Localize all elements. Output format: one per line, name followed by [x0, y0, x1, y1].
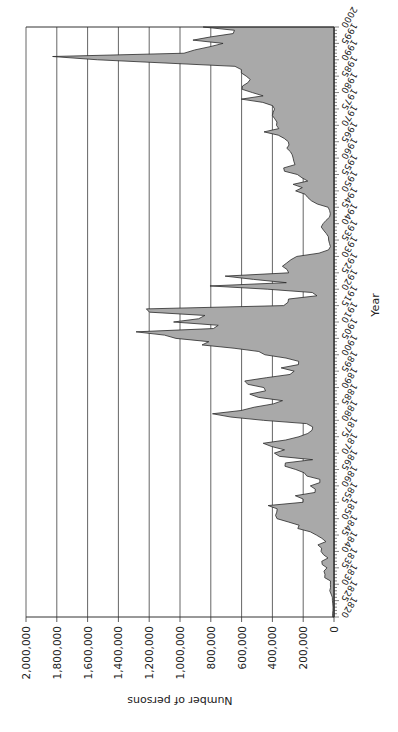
y-tick-label: 1,600,000	[82, 626, 94, 679]
immigration-area-series	[53, 27, 334, 617]
y-axis-ticks: 0200,000400,000600,000800,0001,000,0001,…	[20, 617, 340, 679]
y-tick-label: 1,200,000	[143, 626, 155, 679]
y-tick-label: 2,000,000	[20, 626, 32, 679]
y-tick-label: 200,000	[297, 626, 309, 669]
y-tick-label: 0	[328, 626, 340, 633]
y-tick-label: 1,800,000	[51, 626, 63, 679]
x-axis-ticks: 1820182518301835184018451850185518601865…	[334, 5, 359, 620]
y-tick-label: 1,400,000	[112, 626, 124, 679]
y-tick-label: 1,000,000	[174, 626, 186, 679]
area-chart: 1820182518301835184018451850185518601865…	[0, 0, 398, 732]
y-tick-label: 400,000	[266, 626, 278, 669]
y-tick-label: 800,000	[205, 626, 217, 669]
y-axis-title: Number of persons	[127, 694, 232, 707]
y-tick-label: 600,000	[236, 626, 248, 669]
x-axis-title: Year	[369, 293, 382, 318]
